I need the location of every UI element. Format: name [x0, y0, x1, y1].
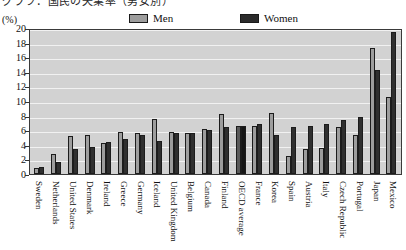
x-axis-label-cell: Czech Republic: [333, 180, 350, 250]
x-axis-category-label: Japan: [371, 181, 380, 202]
bar-women: [375, 70, 380, 174]
bar-women: [174, 133, 179, 174]
x-axis-category-label: Korea: [270, 181, 279, 203]
x-axis-label-cell: Denmark: [81, 180, 98, 250]
bar-women: [274, 135, 279, 174]
bar-group: [48, 30, 65, 174]
x-axis-label-cell: Ireland: [97, 180, 114, 250]
bar-group: [249, 30, 266, 174]
x-axis-label-cell: Korea: [266, 180, 283, 250]
chart-legend: Men Women: [0, 13, 406, 27]
x-axis-category-label: Portugal: [354, 181, 363, 212]
x-axis-label-cell: OECD average: [232, 180, 249, 250]
legend-label-women: Women: [264, 13, 298, 24]
bar-group: [148, 30, 165, 174]
bar-group: [232, 30, 249, 174]
x-axis-category-labels: SwedenNetherlandsUnited StatesDenmarkIre…: [29, 180, 402, 250]
bar-women: [308, 126, 313, 174]
x-axis-category-label: Austria: [304, 181, 313, 208]
x-axis-label-cell: Japan: [367, 180, 384, 250]
x-axis-category-label: Ireland: [101, 181, 110, 206]
bar-group: [199, 30, 216, 174]
x-axis-label-cell: Mexico: [384, 180, 401, 250]
bar-group: [65, 30, 82, 174]
bar-women: [106, 142, 111, 174]
x-axis-label-cell: Netherlands: [47, 180, 64, 250]
x-axis-label-cell: United States: [64, 180, 81, 250]
bar-group: [132, 30, 149, 174]
x-axis-label-cell: Finland: [215, 180, 232, 250]
bar-women: [157, 141, 162, 174]
bar-group: [350, 30, 367, 174]
bar-women: [224, 127, 229, 174]
chart-page: グラフ：国民の失業率（男女別） Men Women (%) 0246810121…: [0, 0, 406, 250]
legend-item-women: Women: [240, 13, 298, 24]
bar-group: [81, 30, 98, 174]
bar-women: [358, 117, 363, 174]
bar-group: [383, 30, 400, 174]
bar-women: [241, 126, 246, 174]
x-axis-category-label: OECD average: [236, 181, 245, 236]
x-axis-category-label: Canada: [203, 181, 212, 208]
plot-wrapper: 02468101214161820: [0, 26, 406, 178]
x-axis-label-cell: United Kingdom: [165, 180, 182, 250]
x-axis-label-cell: France: [249, 180, 266, 250]
bar-group: [31, 30, 48, 174]
x-axis-category-label: Belgium: [186, 181, 195, 212]
x-axis-label-cell: Belgium: [182, 180, 199, 250]
bar-women: [324, 124, 329, 174]
legend-item-men: Men: [129, 13, 173, 24]
bar-women: [207, 130, 212, 174]
x-axis-label-cell: Canada: [199, 180, 216, 250]
x-axis-label-cell: Greece: [114, 180, 131, 250]
x-axis-category-label: Netherlands: [51, 181, 60, 224]
x-axis-category-label: Denmark: [85, 181, 94, 215]
bar-group: [366, 30, 383, 174]
x-axis-label-cell: Austria: [300, 180, 317, 250]
x-axis-category-label: Mexico: [388, 181, 397, 209]
bar-women: [39, 167, 44, 174]
y-axis-unit-label: (%): [2, 15, 17, 25]
legend-swatch-women-icon: [240, 14, 259, 23]
bar-group: [98, 30, 115, 174]
x-axis-label-cell: Sweden: [30, 180, 47, 250]
bar-group: [115, 30, 132, 174]
bar-group: [182, 30, 199, 174]
bar-women: [73, 149, 78, 174]
bar-group: [316, 30, 333, 174]
bar-women: [291, 127, 296, 174]
bar-women: [90, 147, 95, 174]
bar-women: [140, 135, 145, 174]
x-axis-category-label: Spain: [287, 181, 296, 202]
bar-group: [282, 30, 299, 174]
legend-label-men: Men: [153, 13, 173, 24]
bar-groups: [30, 30, 401, 174]
x-axis-category-label: Iceland: [152, 181, 161, 207]
x-axis-category-label: Greece: [118, 181, 127, 206]
bar-group: [266, 30, 283, 174]
x-axis-label-cell: Germany: [131, 180, 148, 250]
y-axis-tick-mark: [25, 175, 29, 176]
x-axis-label-cell: Iceland: [148, 180, 165, 250]
bar-group: [165, 30, 182, 174]
x-axis-label-cell: Portugal: [350, 180, 367, 250]
x-axis-label-cell: Italy: [317, 180, 334, 250]
bar-group: [215, 30, 232, 174]
x-axis-category-label: Sweden: [34, 181, 43, 210]
bar-women: [257, 124, 262, 174]
x-axis-category-label: Germany: [135, 181, 144, 215]
x-axis-category-label: Czech Republic: [337, 181, 346, 238]
page-title: グラフ：国民の失業率（男女別）: [2, 0, 173, 8]
legend-swatch-men-icon: [129, 14, 148, 23]
bar-women: [341, 120, 346, 174]
bar-women: [56, 162, 61, 174]
plot-area: [29, 29, 402, 175]
bar-women: [391, 32, 396, 174]
cropped-title-strip: グラフ：国民の失業率（男女別）: [0, 0, 406, 11]
x-axis-label-cell: Spain: [283, 180, 300, 250]
bar-women: [190, 133, 195, 174]
x-axis-category-label: United Kingdom: [169, 181, 178, 242]
bar-group: [299, 30, 316, 174]
bar-women: [123, 139, 128, 174]
x-axis-category-label: France: [253, 181, 262, 206]
